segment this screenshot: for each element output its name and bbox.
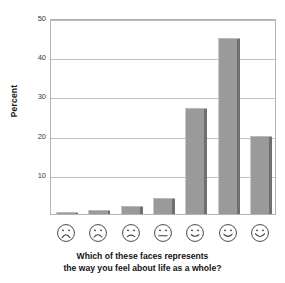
bar-chart: Percent 1020304050 Which of these faces … — [0, 0, 285, 283]
bar-very-happy-face[interactable] — [250, 136, 272, 214]
bar-slot — [51, 212, 83, 214]
plot-area — [50, 19, 276, 215]
caption-line-2: the way you feel about life as a whole? — [12, 262, 273, 274]
caption-line-1: Which of these faces represents — [12, 250, 273, 262]
bar-slot — [83, 210, 115, 214]
y-tick-label: 40 — [22, 54, 46, 62]
chart-caption: Which of these faces represents the way … — [12, 250, 273, 275]
neutral-face-icon — [147, 218, 179, 248]
sad-face-icon — [82, 218, 114, 248]
y-tick-label: 50 — [22, 15, 46, 23]
bar-slot — [148, 198, 180, 214]
x-axis-face-icons — [50, 218, 276, 248]
bar-very-sad-face[interactable] — [56, 212, 78, 214]
very-sad-face-icon — [50, 218, 82, 248]
slightly-sad-face-icon — [115, 218, 147, 248]
bar-slot — [116, 206, 148, 214]
bar-slightly-sad-face[interactable] — [121, 206, 143, 214]
bar-slightly-happy-face[interactable] — [185, 108, 207, 214]
y-tick-label: 30 — [22, 94, 46, 102]
bar-slot — [212, 38, 244, 214]
y-tick-label: 20 — [22, 133, 46, 141]
bar-slot — [180, 108, 212, 214]
y-axis-title: Percent — [9, 71, 19, 131]
slightly-happy-face-icon — [179, 218, 211, 248]
bar-slot — [245, 136, 277, 214]
happy-face-icon — [211, 218, 243, 248]
bar-sad-face[interactable] — [88, 210, 110, 214]
bar-neutral-face[interactable] — [153, 198, 175, 214]
y-axis-tick-labels: 1020304050 — [22, 0, 46, 283]
bars-layer — [51, 20, 275, 214]
very-happy-face-icon — [244, 218, 276, 248]
y-tick-label: 10 — [22, 172, 46, 180]
bar-happy-face[interactable] — [218, 38, 240, 214]
